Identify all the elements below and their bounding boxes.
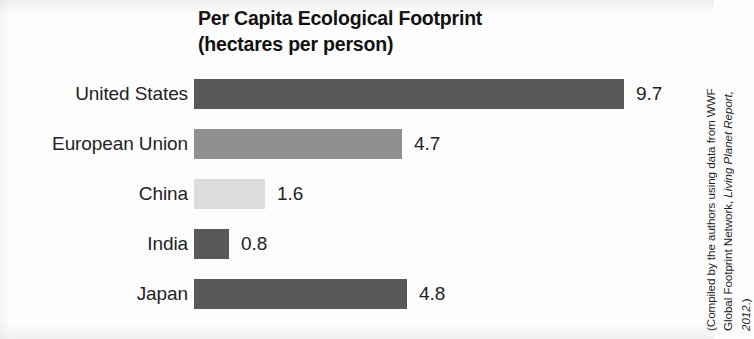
- category-label: European Union: [52, 127, 188, 161]
- bar-value-label: 4.8: [419, 279, 445, 309]
- bar-row: India0.8: [0, 227, 640, 261]
- bar[interactable]: [194, 79, 624, 109]
- chart-title-line-1: Per Capita Ecological Footprint: [198, 6, 618, 32]
- bar-row: China1.6: [0, 177, 640, 211]
- source-note: (Compiled by the authors using data from…: [640, 0, 714, 339]
- bar-track: 4.8: [194, 279, 624, 309]
- source-note-line-2: Global Footprint Network, Living Planet …: [719, 6, 736, 331]
- bar-row: United States9.7: [0, 77, 640, 111]
- bar-row: European Union4.7: [0, 127, 640, 161]
- bar[interactable]: [194, 179, 265, 209]
- bar-value-label: 0.8: [241, 229, 267, 259]
- bar-chart-plot-area: United States9.7European Union4.7China1.…: [0, 73, 640, 323]
- category-label: India: [147, 227, 188, 261]
- source-note-year: 2012: [739, 305, 752, 331]
- bar-track: 9.7: [194, 79, 624, 109]
- source-note-line-2-plain: Global Footprint Network,: [721, 198, 734, 331]
- source-note-line-3: 2012.): [737, 6, 754, 331]
- bar-track: 4.7: [194, 129, 624, 159]
- category-label: China: [139, 177, 188, 211]
- bar-value-label: 4.7: [414, 129, 440, 159]
- bar[interactable]: [194, 279, 407, 309]
- bar-track: 0.8: [194, 229, 624, 259]
- source-note-line-3-plain: .): [739, 298, 752, 305]
- source-note-publication-title: Living Planet Report,: [721, 91, 734, 198]
- source-note-line-1: (Compiled by the authors using data from…: [702, 6, 719, 331]
- category-label: United States: [75, 77, 188, 111]
- bar-track: 1.6: [194, 179, 624, 209]
- chart-title: Per Capita Ecological Footprint (hectare…: [198, 6, 618, 57]
- category-label: Japan: [137, 277, 188, 311]
- bar-value-label: 1.6: [277, 179, 303, 209]
- bar[interactable]: [194, 129, 402, 159]
- bar-row: Japan4.8: [0, 277, 640, 311]
- bar[interactable]: [194, 229, 229, 259]
- chart-title-line-2: (hectares per person): [198, 32, 618, 58]
